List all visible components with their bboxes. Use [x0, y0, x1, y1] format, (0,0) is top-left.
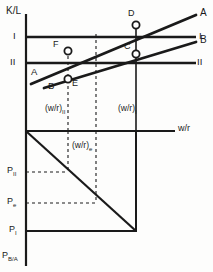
point-marker-C[interactable] [132, 50, 139, 57]
P-II-sub: II [13, 171, 16, 177]
point-label-D: D [128, 9, 135, 18]
point-label-F: F [53, 40, 59, 49]
wr-I-label: (w/r)I [118, 104, 137, 115]
diagram-canvas [0, 0, 213, 272]
point-marker-F[interactable] [64, 47, 71, 54]
point-label-C: C [124, 42, 131, 51]
wr-e-label: (w/r)e [72, 141, 92, 152]
axis-label-w-over-r: w/r [178, 124, 190, 133]
line-II-right-label: II [197, 57, 202, 67]
axis-label-k-over-l: K/L [6, 6, 21, 16]
point-label-E: E [72, 79, 78, 88]
curve-B-left-label: B [48, 81, 54, 91]
point-marker-E[interactable] [64, 75, 71, 82]
tick-label-P-B-over-A: PB/A [2, 251, 18, 262]
tick-label-P-I: PI [9, 225, 17, 236]
tick-label-P-e: Pe [7, 197, 16, 208]
curve-A-right-label: A [200, 8, 207, 18]
wr-I-base: (w/r) [118, 103, 135, 113]
figure-container: K/L I I II II A B A B D C F E (w/r)II (w… [0, 0, 213, 272]
curve-A-left-label: A [31, 67, 37, 77]
wr-II-base: (w/r) [45, 103, 62, 113]
P-BA-sub: B/A [8, 256, 18, 262]
tick-label-P-II: PII [7, 166, 16, 177]
line-II-left-label: II [10, 57, 15, 67]
P-e-sub: e [13, 202, 16, 208]
curve-B-right-label: B [200, 35, 207, 45]
line-I-left-label: I [13, 31, 16, 41]
P-I-sub: I [15, 230, 17, 236]
wr-II-label: (w/r)II [45, 104, 65, 115]
wr-II-sub: II [62, 109, 65, 115]
wr-e-sub: e [89, 146, 92, 152]
point-marker-D[interactable] [132, 21, 139, 28]
wr-I-sub: I [135, 109, 137, 115]
wr-e-base: (w/r) [72, 140, 89, 150]
